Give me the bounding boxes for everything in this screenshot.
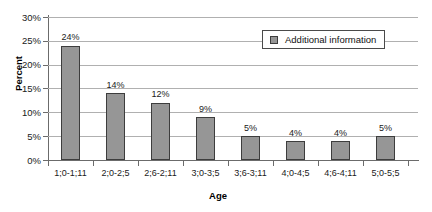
bar-label-8: 5%: [366, 124, 405, 133]
x-tick-label-5: 3;6-3;11: [228, 169, 273, 178]
bar-8[interactable]: [376, 136, 395, 160]
bar-4[interactable]: [196, 117, 215, 160]
bar-7[interactable]: [331, 141, 350, 160]
x-tick-label-8: 5;0-5;5: [363, 169, 408, 178]
y-tick-label-30: 30%: [1, 13, 41, 23]
x-tick-label-7: 4;6-4;11: [318, 169, 363, 178]
gridline-5: [48, 136, 418, 137]
x-tick-label-3: 2;6-2;11: [138, 169, 183, 178]
y-axis-title: Percent: [13, 34, 24, 114]
bar-label-6: 4%: [276, 129, 315, 138]
x-tick-label-6: 4;0-4;5: [273, 169, 318, 178]
bar-chart: 30% 25% 20% 15% 10% 5% 0% Percent 24% 14…: [0, 0, 432, 212]
x-tick-mark-0: [48, 161, 49, 166]
gridline-30: [48, 17, 418, 18]
x-tick-mark-8: [408, 161, 409, 166]
bar-2[interactable]: [106, 93, 125, 160]
bar-label-5: 5%: [231, 124, 270, 133]
x-tick-mark-3: [183, 161, 184, 166]
bar-label-2: 14%: [96, 81, 135, 90]
x-tick-mark-5: [273, 161, 274, 166]
legend-label: Additional information: [285, 35, 376, 45]
x-tick-mark-6: [318, 161, 319, 166]
bar-1[interactable]: [61, 46, 80, 160]
legend[interactable]: Additional information: [262, 30, 385, 49]
x-tick-label-1: 1;0-1;11: [48, 169, 93, 178]
x-axis-title-wrap: Age: [0, 190, 432, 201]
y-tick-label-5: 5%: [1, 132, 41, 142]
x-tick-label-4: 3;0-3;5: [183, 169, 228, 178]
bar-6[interactable]: [286, 141, 305, 160]
x-tick-mark-1: [93, 161, 94, 166]
bar-label-7: 4%: [321, 129, 360, 138]
bar-label-3: 12%: [141, 90, 180, 99]
x-tick-label-2: 2;0-2;5: [93, 169, 138, 178]
x-axis-title: Age: [209, 190, 227, 201]
bar-label-1: 24%: [51, 33, 90, 42]
x-tick-mark-7: [363, 161, 364, 166]
bar-3[interactable]: [151, 103, 170, 160]
bar-label-4: 9%: [186, 105, 225, 114]
y-tick-label-0: 0%: [1, 156, 41, 166]
gridline-10: [48, 112, 418, 113]
x-tick-mark-2: [138, 161, 139, 166]
x-tick-mark-4: [228, 161, 229, 166]
legend-swatch-icon: [270, 36, 278, 44]
bar-5[interactable]: [241, 136, 260, 160]
gridline-20: [48, 65, 418, 66]
